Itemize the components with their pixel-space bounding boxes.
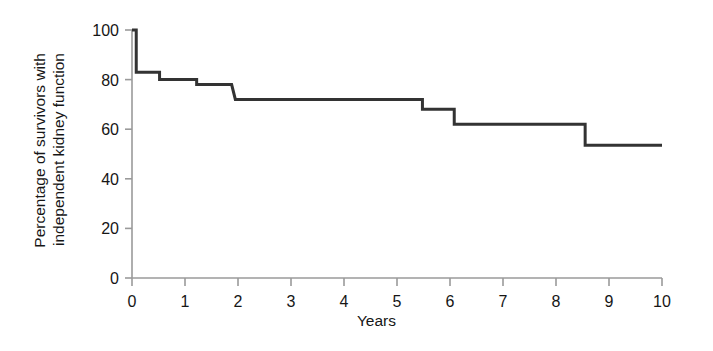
chart-figure: Percentage of survivors with independent… (0, 0, 713, 351)
y-tick-label: 60 (101, 121, 119, 138)
survival-step-line (132, 30, 662, 145)
x-tick-labels: 012345678910 (128, 293, 671, 310)
x-tick-label: 7 (499, 293, 508, 310)
y-tick-label: 40 (101, 171, 119, 188)
x-tick-label: 1 (181, 293, 190, 310)
survival-curve (132, 30, 662, 145)
y-tick-label: 80 (101, 72, 119, 89)
x-tick-label: 5 (393, 293, 402, 310)
x-tick-label: 6 (446, 293, 455, 310)
y-tick-label: 0 (110, 270, 119, 287)
y-tick-labels: 020406080100 (92, 22, 119, 287)
x-axis-label-text: Years (317, 312, 396, 329)
x-tick-label: 3 (287, 293, 296, 310)
chart-plot-area: 020406080100 012345678910 (0, 0, 713, 351)
x-tick-label: 2 (234, 293, 243, 310)
y-tick-label: 100 (92, 22, 119, 39)
x-tick-label: 10 (653, 293, 671, 310)
x-tick-label: 0 (128, 293, 137, 310)
x-tick-label: 8 (552, 293, 561, 310)
x-tick-label: 9 (605, 293, 614, 310)
chart-axes (125, 30, 662, 286)
y-tick-label: 20 (101, 220, 119, 237)
x-tick-label: 4 (340, 293, 349, 310)
x-axis-label: Years (0, 312, 713, 330)
